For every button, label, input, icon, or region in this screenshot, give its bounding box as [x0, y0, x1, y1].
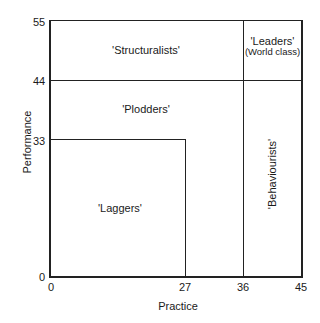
divider-y33 [49, 139, 185, 140]
y-tick-44: 44 [33, 76, 45, 87]
x-axis [49, 276, 302, 278]
region-laggers: 'Laggers' [70, 202, 170, 214]
y-tick-0: 0 [39, 272, 45, 283]
region-leaders: 'Leaders' (World class) [244, 35, 301, 57]
plot-border-right [301, 20, 303, 278]
region-plodders: 'Plodders' [96, 103, 196, 115]
y-tick-33: 33 [33, 136, 45, 147]
region-structuralists: 'Structuralists' [96, 44, 196, 56]
y-tick-55: 55 [33, 17, 45, 28]
plot-border-top [49, 20, 302, 21]
leaders-sublabel: (World class) [244, 47, 301, 57]
y-axis-title: Performance [21, 107, 33, 177]
divider-x27 [185, 139, 186, 277]
x-tick-27: 27 [179, 282, 191, 293]
x-tick-36: 36 [237, 282, 249, 293]
divider-y44 [49, 80, 302, 81]
x-tick-45: 45 [295, 282, 307, 293]
y-axis [49, 20, 51, 278]
region-behaviourists: 'Behaviourists' [266, 134, 278, 214]
divider-x36 [243, 20, 244, 277]
x-axis-title: Practice [153, 300, 203, 312]
x-tick-0: 0 [48, 282, 54, 293]
